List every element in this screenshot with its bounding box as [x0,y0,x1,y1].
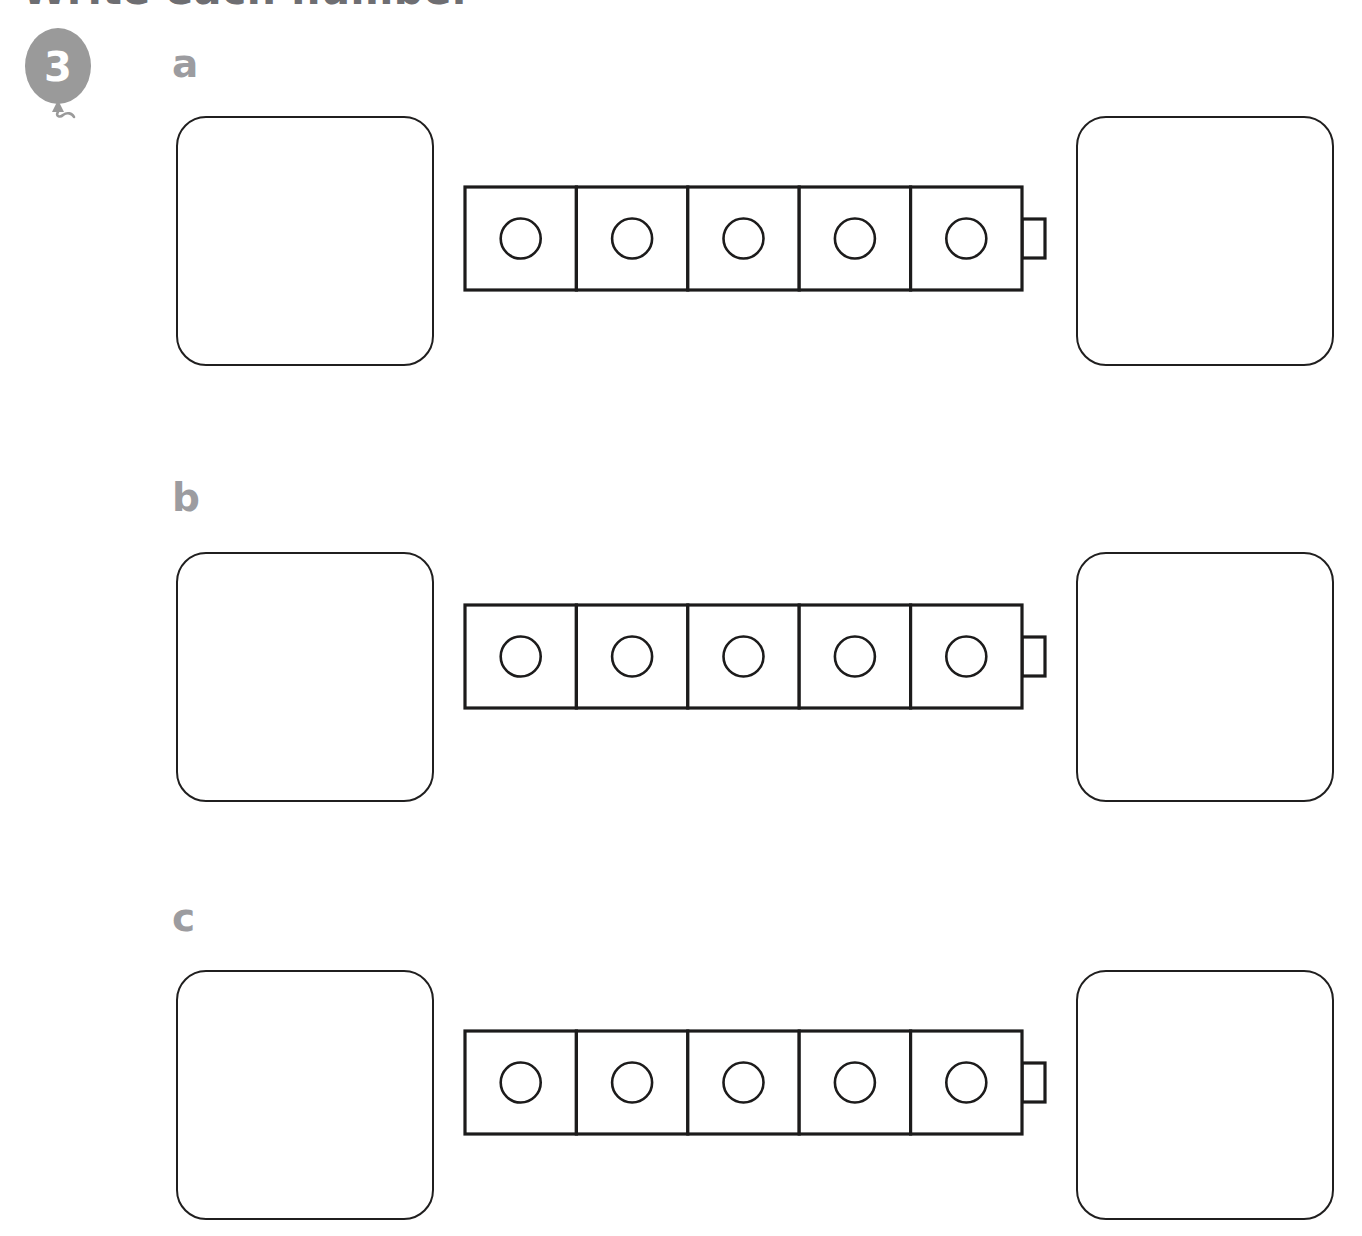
cube-stud-circle [612,637,652,677]
answer-box-right-b[interactable] [1076,552,1334,802]
answer-box-right-c[interactable] [1076,970,1334,1220]
cube-stud-circle [946,637,986,677]
cube-train-svg [462,602,1050,713]
cube-stud-circle [835,637,875,677]
cube-train-b [462,602,1050,713]
row-label-b: b [172,478,200,517]
exercise-row-b: b [0,478,1362,818]
cube-stud-circle [501,1063,541,1103]
cube-stud-circle [724,1063,764,1103]
exercise-row-a: a [0,44,1362,384]
row-label-c: c [172,898,195,937]
answer-box-right-a[interactable] [1076,116,1334,366]
answer-box-left-a[interactable] [176,116,434,366]
cube-stud-circle [612,219,652,259]
cube-stud-circle [946,1063,986,1103]
worksheet-page: Write each number 3 a b c [0,0,1362,1236]
page-title: Write each number [22,0,473,14]
row-label-a: a [172,44,198,83]
answer-box-left-b[interactable] [176,552,434,802]
cube-stud-circle [612,1063,652,1103]
cube-train-svg [462,184,1050,295]
cube-train-c [462,1028,1050,1139]
cube-stud-circle [835,219,875,259]
cube-stud-circle [835,1063,875,1103]
cube-connector-nub [1022,219,1045,258]
cube-stud-circle [724,219,764,259]
cube-connector-nub [1022,1063,1045,1102]
cube-stud-circle [946,219,986,259]
cube-train-a [462,184,1050,295]
cube-stud-circle [501,637,541,677]
exercise-row-c: c [0,898,1362,1236]
cube-stud-circle [501,219,541,259]
cube-stud-circle [724,637,764,677]
answer-box-left-c[interactable] [176,970,434,1220]
cube-train-svg [462,1028,1050,1139]
cube-connector-nub [1022,637,1045,676]
